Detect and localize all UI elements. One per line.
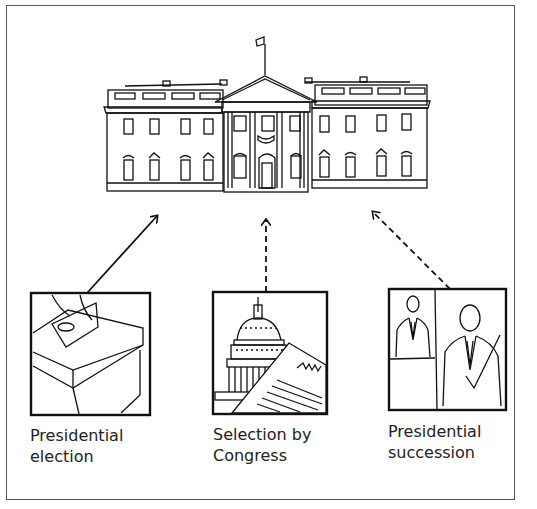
white-house-icon bbox=[104, 37, 430, 192]
successor-figures-icon bbox=[389, 289, 506, 410]
label-line1: Selection by bbox=[213, 424, 311, 445]
label-selection-by-congress: Selection by Congress bbox=[213, 424, 311, 466]
arrow-election bbox=[87, 216, 157, 293]
label-line2: succession bbox=[388, 442, 481, 463]
label-presidential-succession: Presidential succession bbox=[388, 421, 481, 463]
label-line1: Presidential bbox=[30, 425, 123, 446]
label-line1: Presidential bbox=[388, 421, 481, 442]
label-presidential-election: Presidential election bbox=[30, 425, 123, 467]
arrow-succession bbox=[373, 212, 450, 289]
label-line2: Congress bbox=[213, 445, 311, 466]
capitol-document-icon bbox=[213, 292, 327, 414]
label-line2: election bbox=[30, 446, 123, 467]
ballot-box-icon bbox=[31, 293, 150, 415]
